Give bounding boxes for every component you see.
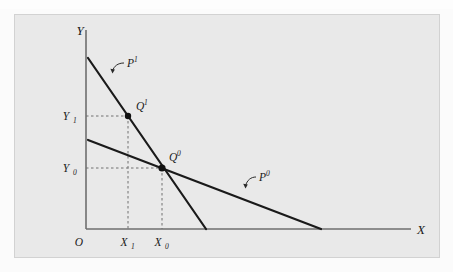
leader-arrow-p1 bbox=[110, 69, 115, 74]
point-label-q0: Q 0 bbox=[169, 149, 181, 163]
y1-subscript: 1 bbox=[73, 116, 77, 125]
top-crop-strip bbox=[0, 0, 453, 9]
point-label-q1: Q 1 bbox=[136, 98, 148, 112]
economics-diagram: Y X O Y 1 Y 0 X 1 X 0 Q 1 Q 0 bbox=[0, 0, 453, 272]
p0-base: P bbox=[258, 171, 266, 183]
leader-arrow-p0 bbox=[243, 184, 248, 189]
x0-base: X bbox=[153, 236, 162, 248]
budget-line-p1 bbox=[88, 58, 206, 229]
curve-label-p0: P 0 bbox=[258, 169, 270, 183]
guide-lines-group bbox=[86, 116, 162, 229]
leader-lines-group bbox=[110, 63, 256, 189]
x-tick-label-x0: X 0 bbox=[153, 236, 169, 251]
y0-base: Y bbox=[63, 162, 71, 174]
screenshot-root: Y X O Y 1 Y 0 X 1 X 0 Q 1 Q 0 bbox=[0, 0, 453, 272]
curve-label-p1: P 1 bbox=[126, 55, 138, 69]
point-q1-marker bbox=[125, 113, 131, 119]
y-tick-label-y1: Y 1 bbox=[63, 110, 77, 125]
p1-base: P bbox=[126, 57, 134, 69]
q0-superscript: 0 bbox=[177, 149, 181, 158]
budget-lines-group bbox=[88, 58, 321, 229]
y0-subscript: 0 bbox=[73, 168, 77, 177]
budget-line-p0 bbox=[88, 140, 321, 229]
p1-superscript: 1 bbox=[134, 55, 138, 64]
p0-superscript: 0 bbox=[266, 169, 270, 178]
y1-base: Y bbox=[63, 110, 71, 122]
y-tick-label-y0: Y 0 bbox=[63, 162, 77, 177]
x1-base: X bbox=[119, 236, 128, 248]
x0-subscript: 0 bbox=[165, 242, 169, 251]
point-q0-marker bbox=[158, 164, 165, 171]
q1-superscript: 1 bbox=[144, 98, 148, 107]
origin-label: O bbox=[75, 236, 84, 248]
x-axis-label: X bbox=[416, 222, 426, 237]
x1-subscript: 1 bbox=[131, 242, 135, 251]
y-axis-label: Y bbox=[76, 23, 85, 38]
x-tick-label-x1: X 1 bbox=[119, 236, 134, 251]
